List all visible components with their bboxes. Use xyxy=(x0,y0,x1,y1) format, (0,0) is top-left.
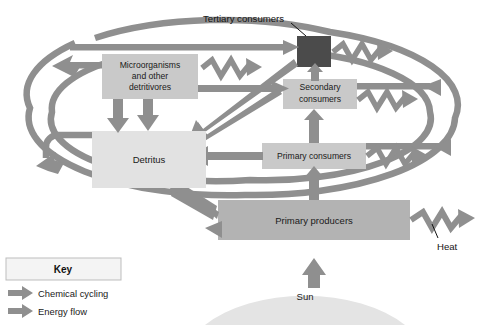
key-entry-energy-flow: Energy flow xyxy=(8,304,87,318)
arrow-cycle-to-tertiary xyxy=(70,40,299,55)
arrow-detritus-to-microorganisms xyxy=(137,99,159,131)
microorganisms-label-line3: detritivores xyxy=(129,82,171,92)
tertiary-consumers-label: Tertiary consumers xyxy=(203,13,284,24)
arrow-sun-to-primary-producers xyxy=(302,258,326,288)
heat-label: Heat xyxy=(437,241,458,252)
secondary-consumers-label-line2: consumers xyxy=(299,94,341,104)
arrow-heat-secondary-consumers xyxy=(358,92,405,108)
arrow-microorganisms-to-detritus xyxy=(107,99,129,133)
heat-arrowhead-secondary-consumers xyxy=(402,90,418,108)
tertiary-consumers-node xyxy=(297,36,331,67)
diagram-canvas: Sun xyxy=(0,0,483,325)
secondary-consumers-label-line1: Secondary xyxy=(299,82,341,92)
block-arrow-icon xyxy=(8,304,33,318)
arrow-heat-primary-producers xyxy=(411,212,461,228)
sun-label: Sun xyxy=(297,291,314,302)
microorganisms-node: Microorganisms and other detritivores xyxy=(102,54,198,99)
key-entry-chemical-cycling: Chemical cycling xyxy=(8,286,108,300)
arrow-cycle-to-primary-producers xyxy=(205,221,222,238)
primary-consumers-node: Primary consumers xyxy=(262,143,366,169)
detritus-label: Detritus xyxy=(133,154,166,165)
arrow-heat-microorganisms xyxy=(202,60,249,76)
primary-producers-node: Primary producers xyxy=(218,200,410,240)
microorganisms-label-line2: and other xyxy=(132,71,168,81)
sun-node: Sun xyxy=(205,291,405,325)
arrow-primary-to-secondary-consumers xyxy=(304,109,324,143)
heat-arrowhead-microorganisms xyxy=(246,58,262,76)
key-label-chemical-cycling: Chemical cycling xyxy=(38,288,108,299)
key-title: Key xyxy=(54,264,73,275)
secondary-consumers-node: Secondary consumers xyxy=(283,79,357,109)
microorganisms-label-line1: Microorganisms xyxy=(120,60,181,70)
block-arrow-icon xyxy=(8,286,33,300)
heat-arrowhead-primary-producers xyxy=(458,209,475,228)
primary-consumers-label: Primary consumers xyxy=(277,151,351,161)
key-legend: Key Chemical cycling Energy flow xyxy=(6,258,121,318)
detritus-node: Detritus xyxy=(92,131,206,188)
ecosystem-energy-flow-diagram: Sun xyxy=(0,0,483,325)
primary-producers-label: Primary producers xyxy=(275,215,353,226)
key-label-energy-flow: Energy flow xyxy=(38,306,87,317)
